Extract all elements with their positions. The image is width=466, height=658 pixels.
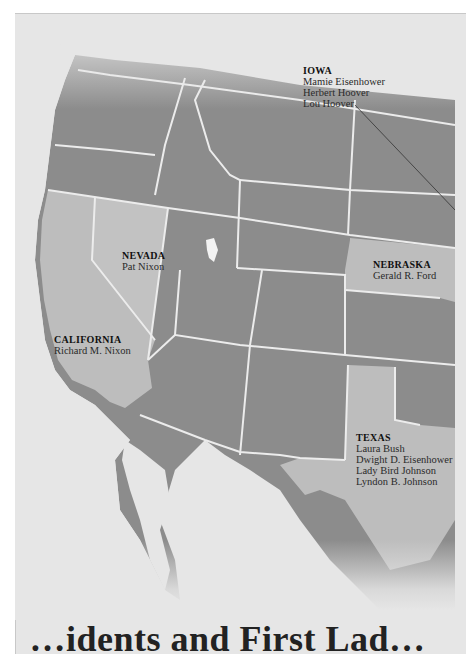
state-name: CALIFORNIA (54, 334, 121, 345)
state-name: TEXAS (356, 432, 391, 443)
state-name: NEVADA (122, 250, 165, 261)
state-name: NEBRASKA (373, 259, 431, 270)
person-name: Pat Nixon (122, 261, 165, 272)
label-california: CALIFORNIA Richard M. Nixon (54, 334, 131, 356)
person-name: Laura Bush (356, 443, 453, 454)
person-name: Mamie Eisenhower (303, 76, 385, 87)
person-name: Richard M. Nixon (54, 345, 131, 356)
label-nebraska: NEBRASKA Gerald R. Ford (373, 259, 436, 281)
state-name: IOWA (303, 65, 332, 76)
person-name: Lou Hoover (303, 98, 385, 109)
label-nevada: NEVADA Pat Nixon (122, 250, 165, 272)
person-name: Lady Bird Johnson (356, 465, 453, 476)
label-iowa: IOWA Mamie Eisenhower Herbert Hoover Lou… (303, 65, 385, 109)
label-texas: TEXAS Laura Bush Dwight D. Eisenhower La… (356, 432, 453, 487)
page-title-partial: …idents and First Lad… (0, 618, 455, 658)
person-name: Gerald R. Ford (373, 270, 436, 281)
person-name: Dwight D. Eisenhower (356, 454, 453, 465)
person-name: Herbert Hoover (303, 87, 385, 98)
person-name: Lyndon B. Johnson (356, 476, 453, 487)
